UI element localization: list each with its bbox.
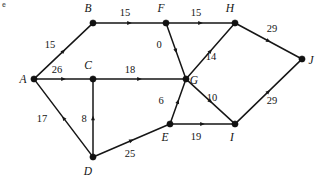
edge-weight-D-E: 25 [125,148,136,159]
arrowhead-C-G [137,77,142,81]
edge-weight-E-I: 19 [191,131,202,142]
edge-weight-labels-layer: 151515290141026181782561929 [37,7,278,159]
arrowhead-E-I [200,122,205,126]
edge-weight-C-G: 18 [125,64,136,75]
node-F [163,20,169,26]
edge-weight-A-C: 26 [52,64,63,75]
node-I [232,121,238,127]
node-G [183,76,189,82]
node-label-B: B [84,2,91,14]
graph-canvas: 151515290141026181782561929 ABCDEFGHIJ [0,0,321,183]
node-B [90,20,96,26]
arrowhead-F-G [173,48,177,53]
node-label-E: E [160,131,168,143]
arrowhead-A-C [61,77,66,81]
edge-weight-I-J: 29 [267,95,278,106]
arrowhead-F-H [198,21,203,25]
node-label-C: C [84,59,92,71]
node-label-J: J [308,54,314,66]
node-E [167,121,173,127]
node-label-D: D [83,165,93,177]
corner-mark-label: e [2,1,6,8]
edge-weight-D-A: 17 [37,113,48,124]
node-J [299,56,305,62]
edge-weight-E-G: 6 [158,95,163,106]
node-A [31,76,37,82]
edge-weight-G-I: 10 [207,92,218,103]
edge-weight-H-J: 29 [267,23,278,34]
node-label-F: F [156,2,165,14]
edge-weight-B-F: 15 [120,7,131,18]
edge-weight-D-C: 8 [81,113,86,124]
edge-weight-F-H: 15 [191,7,202,18]
arrowhead-E-G [175,99,179,104]
edge-weight-G-H: 14 [206,51,217,62]
arrowhead-B-F [127,21,132,25]
edge-weight-F-G: 0 [156,39,161,50]
node-label-A: A [18,73,27,85]
node-label-G: G [190,74,199,86]
node-C [90,76,96,82]
arrowhead-D-C [91,116,95,121]
node-label-I: I [229,131,235,143]
node-H [232,20,238,26]
node-label-H: H [225,2,235,14]
edge-weight-A-B: 15 [45,39,56,50]
graph-diagram: e 151515290141026181782561929 ABCDEFGHIJ [0,0,321,183]
node-D [90,154,96,160]
